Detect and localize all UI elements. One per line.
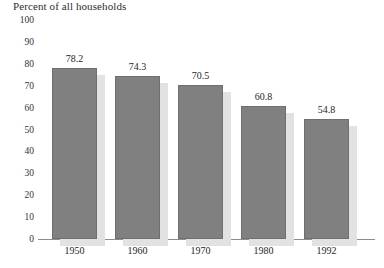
plot-area: 0102030405060708090100 78.2195074.319607… — [0, 0, 384, 268]
bar-1980 — [241, 106, 286, 239]
bar-value-label: 74.3 — [105, 61, 170, 72]
x-axis-label-1970: 1970 — [168, 245, 233, 256]
bars-layer: 78.2195074.3196070.5197060.8198054.81992 — [0, 0, 384, 268]
x-axis-label-1960: 1960 — [105, 245, 170, 256]
x-axis-label-1992: 1992 — [294, 245, 359, 256]
x-axis-label-1950: 1950 — [42, 245, 107, 256]
bar-1970 — [178, 85, 223, 239]
bar-value-label: 54.8 — [294, 104, 359, 115]
bar-value-label: 70.5 — [168, 70, 233, 81]
bar-1960 — [115, 76, 160, 239]
bar-value-label: 60.8 — [231, 91, 296, 102]
x-axis-label-1980: 1980 — [231, 245, 296, 256]
bar-chart: Percent of all households 01020304050607… — [0, 0, 384, 268]
bar-1950 — [52, 68, 97, 239]
bar-value-label: 78.2 — [42, 53, 107, 64]
bar-1992 — [304, 119, 349, 239]
